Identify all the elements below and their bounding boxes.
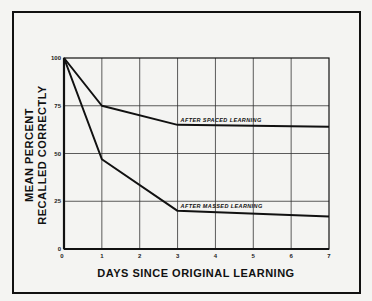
x-tick-label: 0: [60, 253, 64, 259]
x-tick-label: 4: [214, 253, 218, 259]
y-tick-label: 0: [58, 246, 62, 252]
y-tick-label: 50: [54, 151, 61, 157]
y-tick-label: 75: [54, 103, 61, 109]
grid-lines: [64, 58, 329, 249]
x-tick-label: 3: [176, 253, 180, 259]
massed-learning-line: [64, 58, 329, 217]
y-tick-labels: 0255075100: [51, 55, 62, 252]
x-tick-label: 1: [100, 253, 104, 259]
massed-learning-annotation: AFTER MASSED LEARNING: [180, 203, 263, 209]
x-tick-label: 2: [138, 253, 142, 259]
spaced-learning-annotation: AFTER SPACED LEARNING: [180, 117, 262, 123]
x-tick-label: 5: [252, 253, 256, 259]
y-tick-label: 100: [51, 55, 62, 61]
x-tick-labels: 01234567: [60, 253, 331, 259]
x-tick-label: 7: [327, 253, 331, 259]
line-annotations: AFTER SPACED LEARNINGAFTER MASSED LEARNI…: [180, 117, 263, 209]
data-lines: [64, 58, 329, 217]
x-tick-label: 6: [289, 253, 293, 259]
y-tick-label: 25: [54, 198, 61, 204]
y-axis-label-line2: RECALLED CORRECTLY: [36, 85, 48, 225]
forgetting-curve-chart: 0255075100 01234567 AFTER SPACED LEARNIN…: [0, 0, 372, 301]
x-axis-label: DAYS SINCE ORIGINAL LEARNING: [97, 267, 294, 279]
y-axis-label-line1: MEAN PERCENT: [23, 108, 35, 202]
